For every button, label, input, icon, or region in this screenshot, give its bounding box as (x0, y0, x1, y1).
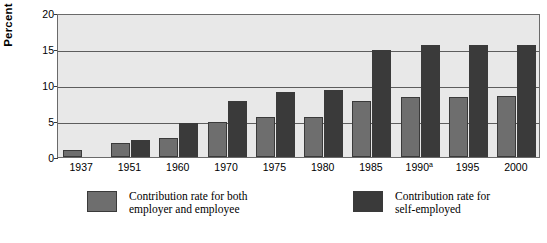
x-tick-label-1980: 1980 (299, 161, 347, 173)
x-tick-label-1990: 1990a (395, 161, 443, 173)
gridline-10 (58, 87, 539, 88)
bar-employer-and-employee-2000 (497, 96, 516, 157)
bar-self-employed-1975 (276, 92, 295, 157)
bar-employer-and-employee-1995 (449, 97, 468, 157)
bar-employer-and-employee-1990 (401, 97, 420, 157)
y-tick-label-0: 0 (32, 153, 54, 163)
bar-employer-and-employee-1937 (63, 150, 82, 157)
bar-self-employed-1985 (372, 50, 391, 157)
y-axis-tick-labels: 05101520 (26, 14, 54, 158)
bar-self-employed-1990 (421, 45, 440, 157)
chart-legend: Contribution rate for both employer and … (57, 190, 540, 230)
x-tick-label-1985: 1985 (347, 161, 395, 173)
y-axis-title: Percent (2, 0, 20, 70)
legend-entry-self-employed: Contribution rate for self-employed (353, 190, 490, 215)
bar-employer-and-employee-1970 (208, 122, 227, 157)
x-tick-label-1960: 1960 (154, 161, 202, 173)
gridline-15 (58, 51, 539, 52)
bar-self-employed-1970 (228, 101, 247, 157)
x-tick-label-1995: 1995 (443, 161, 491, 173)
x-tick-label-2000: 2000 (492, 161, 540, 173)
bar-self-employed-2000 (517, 45, 536, 157)
x-tick-label-1951: 1951 (105, 161, 153, 173)
y-tick-label-15: 15 (32, 45, 54, 55)
x-tick-label-1970: 1970 (202, 161, 250, 173)
x-axis-tick-labels: 19371951196019701975198019851990a1995200… (57, 161, 540, 177)
bar-employer-and-employee-1960 (159, 138, 178, 157)
legend-label: Contribution rate for self-employed (395, 190, 490, 215)
bar-employer-and-employee-1975 (256, 117, 275, 157)
plot-inner (58, 15, 539, 157)
legend-swatch-light (87, 191, 117, 212)
bar-employer-and-employee-1951 (111, 143, 130, 157)
x-tick-label-1975: 1975 (250, 161, 298, 173)
bar-self-employed-1951 (131, 140, 150, 157)
plot-area (57, 14, 540, 158)
legend-entry-employer-and-employee: Contribution rate for both employer and … (87, 190, 248, 215)
y-tick-label-5: 5 (32, 117, 54, 127)
x-tick-footnote-marker: a (429, 161, 433, 168)
legend-swatch-dark (353, 191, 383, 212)
x-tick-label-1937: 1937 (57, 161, 105, 173)
y-tick-label-10: 10 (32, 81, 54, 91)
bar-self-employed-1995 (469, 45, 488, 157)
y-tick-mark-0 (54, 158, 58, 159)
bar-self-employed-1980 (324, 90, 343, 157)
y-tick-label-20: 20 (32, 9, 54, 19)
bar-chart-figure: Percent 05101520 19371951196019701975198… (0, 0, 547, 243)
legend-label: Contribution rate for both employer and … (129, 190, 248, 215)
bar-employer-and-employee-1980 (304, 117, 323, 157)
bar-employer-and-employee-1985 (352, 101, 371, 157)
bar-self-employed-1960 (179, 123, 198, 157)
